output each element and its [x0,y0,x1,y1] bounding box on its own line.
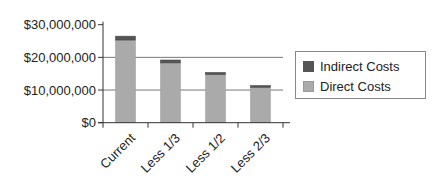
legend-item-direct-costs: Direct Costs [303,78,391,94]
bar-segment [206,75,226,123]
direct-costs-swatch-icon [303,81,314,92]
bar-segment [206,72,226,74]
legend-item-indirect-costs: Indirect Costs [303,58,399,74]
bar-segment [116,36,136,40]
indirect-costs-swatch-icon [303,61,314,72]
chart-legend: Indirect Costs Direct Costs [295,51,426,99]
y-tick-label: $0 [82,116,96,129]
stacked-bar-chart: $30,000,000 $20,000,000 $10,000,000 $0 C… [0,0,443,178]
bar-segment [161,60,181,63]
legend-label: Direct Costs [320,79,391,94]
bar-segment [251,85,271,87]
bar-segment [251,87,271,122]
bar-segment [161,63,181,123]
y-tick-label: $10,000,000 [24,84,96,97]
bar-segment [116,40,136,123]
legend-label: Indirect Costs [320,59,399,74]
y-tick-label: $30,000,000 [24,18,96,31]
y-tick-label: $20,000,000 [24,51,96,64]
